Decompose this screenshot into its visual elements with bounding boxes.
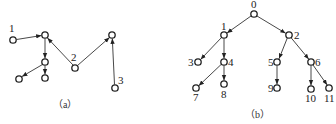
node-a-1 (10, 37, 16, 43)
node-a-2 (72, 65, 78, 71)
edge-b-2-to-6 (291, 38, 309, 59)
label-b-5: 5 (268, 56, 274, 68)
node-b-9 (274, 85, 280, 91)
label-b-9: 9 (268, 82, 274, 94)
edge-a-mid-to-bottom-left (22, 65, 43, 77)
edge-b-1-to-3 (201, 38, 222, 60)
diagram-canvas: 1 2 3 （a） (0, 0, 336, 124)
label-b-3: 3 (188, 56, 194, 68)
label-b-6: 6 (315, 56, 321, 68)
caption-b: （b） (245, 109, 270, 120)
edge-b-2-to-5 (279, 38, 287, 59)
node-b-6 (308, 59, 314, 65)
caption-a: （a） (53, 99, 77, 110)
figure-b: 0 1 2 3 4 5 6 7 8 9 10 11 （b） (188, 0, 335, 120)
node-a-bottom-middle (42, 75, 48, 81)
label-a-1: 1 (9, 22, 15, 34)
node-a-top-right (109, 32, 115, 38)
label-a-2: 2 (71, 51, 77, 63)
figure-a-edges (17, 36, 115, 85)
edge-a-2-to-top-right (78, 38, 110, 66)
node-b-5 (274, 59, 280, 65)
figure-a: 1 2 3 （a） (9, 22, 124, 110)
label-b-10: 10 (305, 92, 317, 104)
node-b-3 (195, 59, 201, 65)
label-b-1: 1 (221, 20, 227, 32)
edge-b-6-to-11 (313, 65, 327, 85)
node-b-11 (326, 85, 332, 91)
label-b-0: 0 (251, 0, 257, 10)
node-b-4 (221, 59, 227, 65)
label-a-3: 3 (118, 74, 124, 86)
figure-a-nodes (10, 32, 118, 91)
edge-a-1-to-top (17, 36, 42, 40)
edge-a-2-to-top (48, 38, 74, 65)
node-b-2 (286, 32, 292, 38)
figure-b-edges (199, 16, 328, 86)
node-b-1 (221, 32, 227, 38)
node-a-mid (42, 59, 48, 65)
node-a-bottom-left (16, 76, 22, 82)
node-b-0 (251, 11, 257, 17)
figure-a-labels: 1 2 3 (9, 22, 124, 86)
node-b-8 (221, 81, 227, 87)
label-b-4: 4 (228, 56, 234, 68)
label-b-7: 7 (193, 91, 199, 103)
label-b-11: 11 (324, 92, 335, 104)
label-b-8: 8 (221, 88, 227, 100)
edge-b-0-to-2 (257, 16, 286, 33)
edge-a-3-to-top-right (112, 39, 114, 85)
edge-b-0-to-1 (227, 16, 251, 33)
node-a-top (42, 32, 48, 38)
label-b-2: 2 (294, 29, 300, 41)
edge-b-4-to-7 (199, 64, 222, 86)
